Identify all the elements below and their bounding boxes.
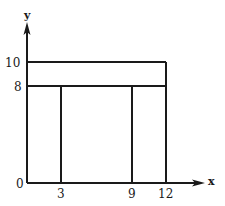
x-tick-9: 9: [128, 187, 136, 201]
coordinate-diagram: y x 0 10 8 3 9 12: [0, 0, 225, 206]
y-axis-label: y: [23, 9, 31, 22]
x-tick-12: 12: [158, 187, 173, 201]
origin-label: 0: [16, 177, 24, 191]
x-tick-3: 3: [57, 187, 65, 201]
y-tick-8: 8: [14, 80, 22, 94]
x-axis-label: x: [208, 175, 215, 188]
y-tick-10: 10: [5, 56, 20, 70]
